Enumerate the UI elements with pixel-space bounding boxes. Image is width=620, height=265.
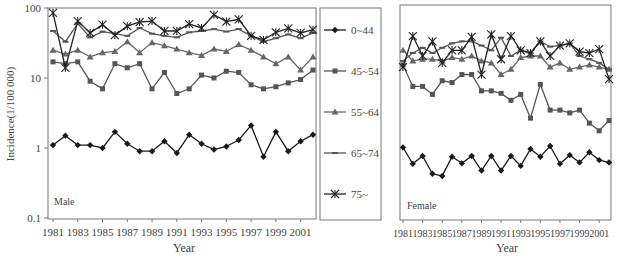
triangle-marker <box>586 61 593 67</box>
triangle-marker <box>468 52 475 58</box>
series-45-54 <box>401 62 612 133</box>
square-marker <box>187 86 192 91</box>
x-tick-label: 1981 <box>393 228 413 239</box>
square-marker <box>88 79 93 84</box>
square-marker <box>311 68 316 73</box>
x-tick-label: 1985 <box>432 228 452 239</box>
square-marker <box>430 92 435 97</box>
diamond-marker <box>87 142 93 148</box>
star-marker <box>99 21 107 29</box>
star-marker <box>507 32 515 40</box>
male-plot-frame <box>48 8 316 219</box>
star-marker <box>272 28 280 36</box>
star-marker <box>61 64 69 72</box>
x-tick-label: 1983 <box>413 228 433 239</box>
star-marker <box>595 45 603 53</box>
x-tick-label: 1991 <box>491 228 511 239</box>
star-marker <box>487 30 495 38</box>
square-marker <box>261 86 266 91</box>
female-series-group <box>399 30 613 179</box>
square-marker <box>273 84 278 89</box>
triangle-marker <box>50 47 57 53</box>
x-tick-label: 1987 <box>452 228 472 239</box>
diamond-marker <box>273 129 279 135</box>
square-marker <box>499 91 504 96</box>
square-marker <box>137 61 142 66</box>
square-marker <box>538 82 543 87</box>
x-tick-label: 1981 <box>42 226 64 238</box>
star-marker <box>497 55 505 63</box>
diamond-marker <box>211 146 217 152</box>
star-marker <box>546 52 554 60</box>
legend-label: 65~74 <box>351 147 379 159</box>
square-marker <box>577 108 582 113</box>
diamond-marker <box>310 131 316 137</box>
star-marker <box>419 52 427 60</box>
star-marker <box>210 11 218 19</box>
square-marker <box>224 69 229 74</box>
star-marker <box>198 24 206 32</box>
star-marker <box>284 24 292 32</box>
star-marker <box>297 29 305 37</box>
star-marker <box>86 29 94 37</box>
square-marker <box>459 72 464 77</box>
square-marker <box>518 92 523 97</box>
diamond-marker <box>260 154 266 160</box>
square-marker <box>249 82 254 87</box>
square-marker <box>450 80 455 85</box>
diamond-marker <box>136 148 142 154</box>
triangle-marker <box>235 41 242 47</box>
diamond-marker <box>439 173 445 179</box>
square-marker <box>286 80 291 85</box>
x-tick-label: 1999 <box>570 228 590 239</box>
square-marker <box>508 98 513 103</box>
x-tick-label: 1989 <box>471 228 491 239</box>
square-marker <box>112 61 117 66</box>
diamond-marker <box>400 144 406 150</box>
female-panel-label: Female <box>407 200 437 211</box>
square-marker <box>150 86 155 91</box>
x-tick-label: 1993 <box>511 228 531 239</box>
triangle-marker <box>124 38 131 44</box>
series-55-64 <box>50 38 317 72</box>
x-tick-label: 2001 <box>290 226 312 238</box>
triangle-marker <box>74 47 81 53</box>
square-marker <box>420 84 425 89</box>
x-tick-label: 1991 <box>166 226 188 238</box>
male-x-axis-title: Year <box>173 241 195 255</box>
star-marker <box>185 20 193 28</box>
x-tick-label: 1995 <box>215 226 238 238</box>
square-marker <box>298 77 303 82</box>
square-marker <box>410 84 415 89</box>
legend-item: 65~74 <box>324 147 379 159</box>
chart-figure: 1001010.1 198119831985198719891991199319… <box>0 0 620 265</box>
triangle-marker <box>149 39 156 45</box>
legend-item: 75~ <box>324 188 368 200</box>
y-axis-title: Incidence(1/100 000) <box>4 66 17 161</box>
x-tick-label: 2001 <box>589 228 609 239</box>
star-marker <box>477 71 485 79</box>
legend-item: 55~64 <box>324 106 379 118</box>
star-marker <box>605 75 613 83</box>
square-marker <box>211 76 216 81</box>
female-x-axis: 1981198319851987198919911993199519971999… <box>393 220 609 239</box>
legend-item: 45~54 <box>324 65 379 77</box>
star-marker <box>111 31 119 39</box>
female-x-axis-title: Year <box>496 241 518 255</box>
x-tick-label: 1993 <box>191 226 214 238</box>
square-marker <box>236 70 241 75</box>
x-tick-label: 1999 <box>265 226 288 238</box>
x-tick-label: 1997 <box>550 228 570 239</box>
square-icon <box>333 69 338 74</box>
legend-label: 0~44 <box>351 24 374 36</box>
square-marker <box>125 65 130 70</box>
triangle-marker <box>400 47 407 53</box>
male-series-group <box>49 9 317 160</box>
square-marker <box>174 91 179 96</box>
star-marker <box>468 33 476 41</box>
y-tick-label: 0.1 <box>27 212 41 224</box>
x-tick-label: 1995 <box>530 228 550 239</box>
diamond-marker <box>429 171 435 177</box>
square-marker <box>489 88 494 93</box>
star-marker <box>74 17 82 25</box>
